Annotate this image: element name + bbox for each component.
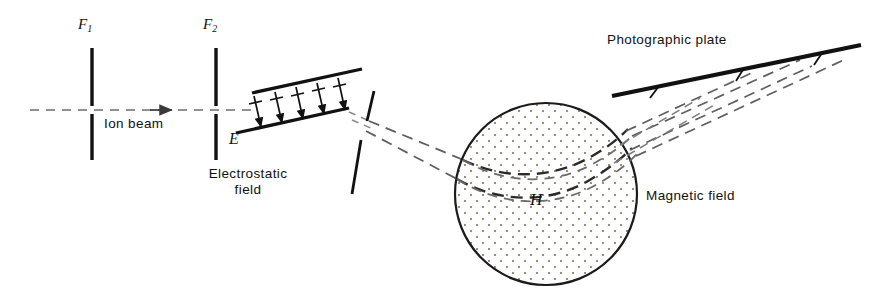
label-slit-f1: F1 <box>78 16 92 34</box>
label-e-field-symbol: E <box>229 130 239 148</box>
label-ion-beam: Ion beam <box>104 116 164 132</box>
electrostatic-line-2: field <box>235 182 262 197</box>
energy-selecting-slit <box>352 91 374 194</box>
magnetic-field-region <box>455 103 637 285</box>
photographic-plate <box>612 45 861 98</box>
label-slit-f2: F2 <box>203 16 217 34</box>
label-magnetic-field: Magnetic field <box>646 188 735 204</box>
label-photographic-plate: Photographic plate <box>607 32 727 48</box>
electrostatic-line-1: Electrostatic <box>209 166 288 181</box>
diagram-canvas <box>0 0 886 302</box>
mass-spectrograph-diagram: F1 F2 Ion beam E Electrostatic field H M… <box>0 0 886 302</box>
label-h-field-symbol: H <box>530 190 542 210</box>
beam-to-magnet <box>366 121 466 180</box>
label-electrostatic-field: Electrostatic field <box>168 166 328 198</box>
